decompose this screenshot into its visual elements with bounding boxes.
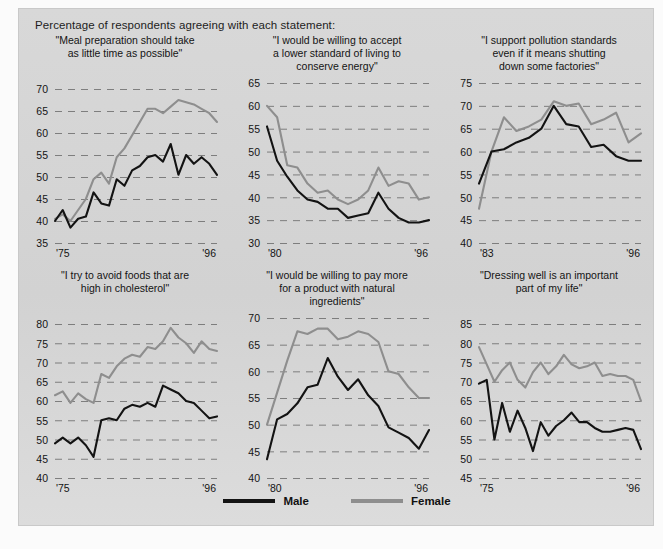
x-axis-tick-label-end: '96 bbox=[626, 247, 640, 259]
chart-svg-5: 455055606570758085'75'96 bbox=[443, 318, 655, 498]
y-axis-tick-label: 65 bbox=[460, 123, 472, 135]
y-axis-tick-label: 45 bbox=[248, 169, 260, 181]
y-axis-tick-label: 70 bbox=[460, 376, 472, 388]
y-axis-tick-label: 50 bbox=[36, 171, 48, 183]
y-axis-tick-label: 65 bbox=[460, 395, 472, 407]
y-axis-tick-label: 30 bbox=[248, 237, 260, 249]
y-axis-tick-label: 40 bbox=[460, 237, 472, 249]
y-axis-tick-label: 40 bbox=[248, 472, 260, 484]
y-axis-tick-label: 55 bbox=[248, 392, 260, 404]
series-line-female bbox=[55, 328, 217, 403]
y-axis-tick-label: 50 bbox=[460, 192, 472, 204]
chart-svg-2: 4045505560657075'83'96 bbox=[443, 77, 655, 263]
chart-svg-0: 3540455055606570'75'96 bbox=[19, 83, 231, 263]
chart-svg-4: 40455055606570'80'96 bbox=[231, 312, 443, 498]
y-axis-tick-label: 45 bbox=[36, 453, 48, 465]
y-axis-tick-label: 80 bbox=[36, 318, 48, 330]
chart-panel-2: "I support pollution standards even if i… bbox=[443, 31, 655, 266]
y-axis-tick-label: 65 bbox=[248, 77, 260, 89]
chart-panel-4: "I would be willing to pay more for a pr… bbox=[231, 266, 443, 501]
chart-panel-5: "Dressing well is an important part of m… bbox=[443, 266, 655, 501]
legend-label-male: Male bbox=[283, 495, 309, 507]
plot-area-5: 455055606570758085'75'96 bbox=[443, 318, 655, 498]
y-axis-tick-label: 45 bbox=[460, 214, 472, 226]
series-line-female bbox=[479, 101, 641, 208]
chart-title-1: "I would be willing to accept a lower st… bbox=[239, 34, 435, 73]
legend-label-female: Female bbox=[411, 495, 451, 507]
y-axis-tick-label: 55 bbox=[36, 149, 48, 161]
y-axis-tick-label: 60 bbox=[248, 366, 260, 378]
chart-svg-1: 3035404550556065'80'96 bbox=[231, 77, 443, 263]
legend: Male Female bbox=[19, 491, 655, 511]
plot-area-0: 3540455055606570'75'96 bbox=[19, 83, 231, 263]
y-axis-tick-label: 40 bbox=[36, 472, 48, 484]
chart-title-5: "Dressing well is an important part of m… bbox=[451, 269, 647, 295]
y-axis-tick-label: 70 bbox=[460, 100, 472, 112]
y-axis-tick-label: 55 bbox=[248, 123, 260, 135]
y-axis-tick-label: 35 bbox=[36, 237, 48, 249]
small-multiples-grid: "Meal preparation should take as little … bbox=[19, 31, 655, 501]
y-axis-tick-label: 75 bbox=[36, 338, 48, 350]
x-axis-tick-label-start: '80 bbox=[268, 247, 282, 259]
y-axis-tick-label: 70 bbox=[248, 312, 260, 324]
y-axis-tick-label: 60 bbox=[248, 100, 260, 112]
y-axis-tick-label: 55 bbox=[460, 169, 472, 181]
y-axis-tick-label: 45 bbox=[36, 193, 48, 205]
y-axis-tick-label: 75 bbox=[460, 357, 472, 369]
plot-area-3: 404550556065707580'75'96 bbox=[19, 318, 231, 498]
y-axis-tick-label: 40 bbox=[248, 192, 260, 204]
legend-entry-male: Male bbox=[223, 495, 309, 507]
y-axis-tick-label: 65 bbox=[36, 105, 48, 117]
x-axis-tick-label-end: '96 bbox=[202, 247, 216, 259]
x-axis-tick-label-start: '83 bbox=[480, 247, 494, 259]
chart-title-0: "Meal preparation should take as little … bbox=[27, 34, 223, 60]
plot-area-4: 40455055606570'80'96 bbox=[231, 312, 443, 498]
chart-panel: Percentage of respondents agreeing with … bbox=[18, 8, 654, 526]
chart-title-4: "I would be willing to pay more for a pr… bbox=[239, 269, 435, 308]
series-line-female bbox=[479, 347, 641, 401]
legend-entry-female: Female bbox=[351, 495, 451, 507]
y-axis-tick-label: 70 bbox=[36, 357, 48, 369]
y-axis-tick-label: 60 bbox=[36, 395, 48, 407]
chart-panel-1: "I would be willing to accept a lower st… bbox=[231, 31, 443, 266]
series-line-male bbox=[267, 358, 429, 459]
y-axis-tick-label: 80 bbox=[460, 338, 472, 350]
chart-title-2: "I support pollution standards even if i… bbox=[451, 34, 647, 73]
y-axis-tick-label: 45 bbox=[460, 472, 472, 484]
y-axis-tick-label: 75 bbox=[460, 77, 472, 89]
y-axis-tick-label: 50 bbox=[36, 434, 48, 446]
series-line-female bbox=[55, 100, 217, 221]
chart-title-3: "I try to avoid foods that are high in c… bbox=[27, 269, 223, 295]
plot-area-2: 4045505560657075'83'96 bbox=[443, 77, 655, 263]
y-axis-tick-label: 70 bbox=[36, 83, 48, 95]
chart-svg-3: 404550556065707580'75'96 bbox=[19, 318, 231, 498]
y-axis-tick-label: 55 bbox=[36, 415, 48, 427]
x-axis-tick-label-start: '75 bbox=[56, 247, 70, 259]
y-axis-tick-label: 60 bbox=[36, 127, 48, 139]
series-line-male bbox=[55, 144, 217, 228]
y-axis-tick-label: 50 bbox=[460, 453, 472, 465]
y-axis-tick-label: 85 bbox=[460, 318, 472, 330]
y-axis-tick-label: 45 bbox=[248, 446, 260, 458]
y-axis-tick-label: 65 bbox=[248, 339, 260, 351]
y-axis-tick-label: 60 bbox=[460, 415, 472, 427]
y-axis-tick-label: 60 bbox=[460, 146, 472, 158]
y-axis-tick-label: 65 bbox=[36, 376, 48, 388]
y-axis-tick-label: 50 bbox=[248, 146, 260, 158]
header-note: Percentage of respondents agreeing with … bbox=[35, 19, 335, 31]
y-axis-tick-label: 40 bbox=[36, 215, 48, 227]
chart-panel-0: "Meal preparation should take as little … bbox=[19, 31, 231, 266]
legend-line-male-icon bbox=[223, 499, 275, 503]
chart-panel-3: "I try to avoid foods that are high in c… bbox=[19, 266, 231, 501]
y-axis-tick-label: 35 bbox=[248, 214, 260, 226]
series-line-female bbox=[267, 106, 429, 204]
x-axis-tick-label-end: '96 bbox=[414, 247, 428, 259]
y-axis-tick-label: 55 bbox=[460, 434, 472, 446]
figure-root: Percentage of respondents agreeing with … bbox=[0, 0, 663, 549]
legend-line-female-icon bbox=[351, 499, 403, 503]
y-axis-tick-label: 50 bbox=[248, 419, 260, 431]
plot-area-1: 3035404550556065'80'96 bbox=[231, 77, 443, 263]
